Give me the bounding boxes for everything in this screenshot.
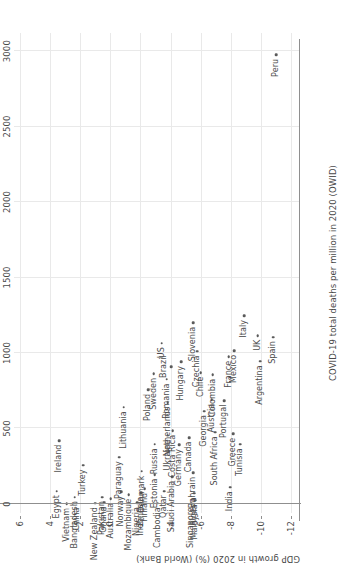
data-point-label: Portugal [220,405,228,439]
data-point[interactable] [165,378,168,381]
scatter-plot-area: EgyptIrelandVietnamBangladeshTurkeyChina… [14,33,300,513]
gridline-horizontal [20,33,21,513]
data-point[interactable] [259,360,262,363]
data-point-label: Paraguay [115,461,123,499]
data-point[interactable] [212,374,215,377]
y-tick-label: -4 [166,521,176,543]
figure-stage: EgyptIrelandVietnamBangladeshTurkeyChina… [0,0,356,575]
data-point-label: UK [254,340,262,351]
gridline-vertical [14,427,300,428]
data-point[interactable] [122,406,125,409]
y-tick-mark [20,516,21,519]
data-point[interactable] [118,456,121,459]
gridline-vertical [14,50,300,51]
data-point[interactable] [239,443,242,446]
data-point-label: Russia [151,448,159,474]
x-tick-label: 2500 [2,116,12,138]
data-point[interactable] [192,472,195,475]
gridline-horizontal [50,33,51,513]
data-point[interactable] [163,490,166,493]
y-tick-label: 2 [75,521,85,543]
data-point[interactable] [143,488,146,491]
gridline-horizontal [110,33,111,513]
y-tick-label: -10 [256,521,266,543]
data-point-label: Sweden [150,378,158,410]
data-point[interactable] [194,499,197,502]
data-point-label: Ireland [55,445,63,473]
data-point[interactable] [192,322,195,325]
x-tick-label: 1500 [2,267,12,289]
data-point[interactable] [153,443,156,446]
data-point-label: Egypt [53,495,61,518]
x-tick-label: 2000 [2,191,12,213]
y-tick-label: -2 [135,521,145,543]
y-tick-mark [261,516,262,519]
data-point[interactable] [73,496,76,499]
y-tick-label: 0 [105,521,115,543]
y-tick-mark [171,516,172,519]
data-point-label: Slovenia [189,327,197,361]
data-point[interactable] [223,399,226,402]
data-point[interactable] [140,470,143,473]
data-point[interactable] [229,486,232,489]
x-tick-label: 0 [2,501,12,507]
data-point[interactable] [109,497,112,500]
x-tick-label: 1000 [2,342,12,364]
data-point[interactable] [170,365,173,368]
y-tick-label: 6 [15,521,25,543]
x-axis-label: COVID-19 total deaths per million in 202… [328,33,338,513]
data-point-label: Lithuania [120,411,128,449]
gridline-horizontal [261,33,262,513]
data-point-label: Italy [240,320,248,338]
data-point-label: Peru [272,59,280,77]
gridline-horizontal [80,33,81,513]
data-point-label: Hungary [177,366,185,401]
data-point[interactable] [171,429,174,432]
data-point-label: Colombia [209,379,217,417]
data-point[interactable] [233,349,236,352]
y-tick-label: -6 [196,521,206,543]
gridline-vertical [14,277,300,278]
data-point-label: Argentina [256,365,264,404]
y-tick-mark [140,516,141,519]
y-tick-mark [110,516,111,519]
data-point[interactable] [243,315,246,318]
y-axis-label: GDP growth in 2020 (%) (World Bank) [136,554,300,564]
data-point[interactable] [55,490,58,493]
x-axis-spine [299,39,300,521]
y-tick-mark [201,516,202,519]
data-point[interactable] [180,361,183,364]
data-point[interactable] [127,494,130,497]
data-point-label: Finland [141,493,149,522]
data-point[interactable] [275,54,278,57]
x-tick-label: 500 [2,420,12,437]
data-point-label: Turkey [79,469,87,495]
data-point-label: Spain [269,341,277,364]
data-point[interactable] [188,436,191,439]
data-point[interactable] [58,439,61,442]
data-point-label: South Africa [211,436,219,485]
gridline-horizontal [140,33,141,513]
data-point[interactable] [101,496,104,499]
y-tick-mark [50,516,51,519]
data-point[interactable] [272,336,275,339]
data-point[interactable] [178,444,181,447]
data-point-label: Romania [163,383,171,418]
y-tick-label: 4 [45,521,55,543]
data-point[interactable] [256,334,259,337]
y-tick-label: -12 [286,521,296,543]
data-point-label: Mexico [230,355,238,383]
data-point[interactable] [203,410,206,413]
y-tick-mark [80,516,81,519]
data-point[interactable] [160,342,163,345]
x-tick-label: 3000 [2,40,12,62]
data-point[interactable] [232,432,235,435]
rotated-figure-container: EgyptIrelandVietnamBangladeshTurkeyChina… [0,0,356,575]
data-point[interactable] [152,373,155,376]
y-tick-label: -8 [226,521,236,543]
y-tick-mark [231,516,232,519]
data-point-label: Tunisia [236,448,244,476]
data-point-label: India [226,491,234,511]
data-point-label: Brazil [160,355,168,378]
data-point[interactable] [82,464,85,467]
